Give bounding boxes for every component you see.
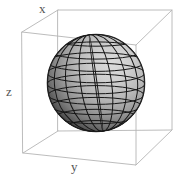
- plot-figure: x y z: [0, 0, 182, 187]
- axis-label-z: z: [6, 85, 12, 98]
- box-edge-top-right: [136, 10, 172, 45]
- sphere-3d-plot: [0, 0, 182, 187]
- axis-label-x: x: [39, 2, 46, 15]
- axis-label-y: y: [71, 160, 78, 173]
- box-edge-bottom-right: [136, 130, 172, 165]
- box-edge-bottom-left: [23, 131, 58, 153]
